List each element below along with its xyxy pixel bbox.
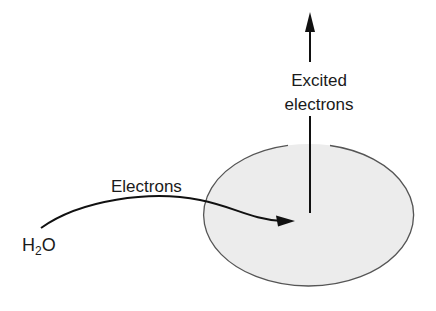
up-arrowhead-icon (305, 12, 315, 32)
excited-label-line1: Excited (276, 69, 362, 93)
electrons-label: Electrons (111, 178, 182, 195)
excited-label-line2: electrons (276, 93, 362, 117)
excited-electrons-label: Excited electrons (276, 69, 362, 117)
h2o-h: H (22, 235, 35, 255)
diagram-graphics (0, 0, 436, 311)
diagram-canvas: Excited electrons Electrons H2O (0, 0, 436, 311)
h2o-subscript: 2 (35, 244, 42, 258)
h2o-label: H2O (22, 236, 56, 257)
h2o-o: O (42, 235, 56, 255)
